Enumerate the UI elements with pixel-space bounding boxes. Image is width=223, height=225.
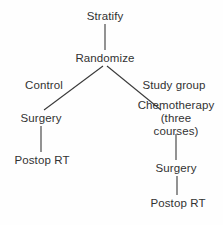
trial-flowchart-figure: Stratify Randomize Control Study group S… bbox=[0, 0, 223, 225]
node-randomize: Randomize bbox=[75, 52, 134, 65]
edge-label-study-group: Study group bbox=[142, 79, 205, 92]
node-chemotherapy-line1: Chemotherapy bbox=[138, 99, 215, 112]
edge-label-control: Control bbox=[25, 79, 63, 92]
node-surgery-study: Surgery bbox=[156, 162, 197, 175]
node-chemotherapy: Chemotherapy (three courses) bbox=[138, 99, 215, 137]
node-postop-rt-control: Postop RT bbox=[14, 154, 69, 167]
node-chemotherapy-line2: (three courses) bbox=[138, 112, 215, 138]
node-stratify: Stratify bbox=[87, 10, 124, 23]
node-postop-rt-study: Postop RT bbox=[150, 197, 205, 210]
node-surgery-control: Surgery bbox=[21, 112, 62, 125]
